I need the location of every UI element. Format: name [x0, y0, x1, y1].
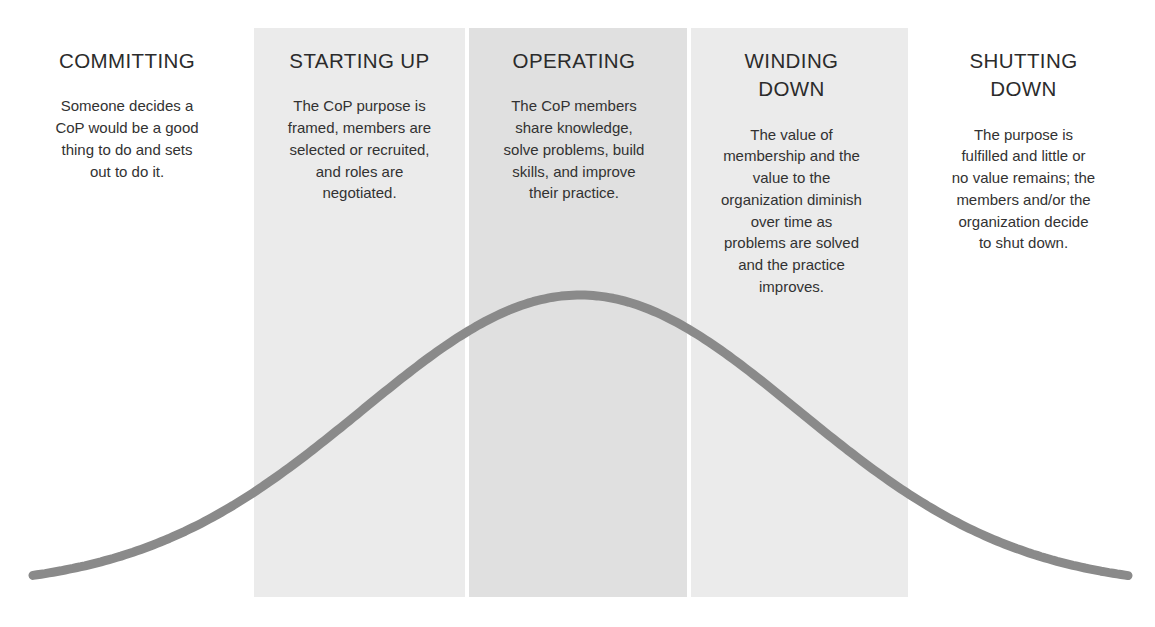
- stage-description-starting-up: The CoP purpose is framed, members are s…: [260, 95, 460, 204]
- stage-title-operating: OPERATING: [474, 47, 674, 75]
- stage-column-committing: COMMITTINGSomeone decides a CoP would be…: [0, 0, 254, 182]
- stage-column-operating: OPERATINGThe CoP members share knowledge…: [465, 0, 683, 204]
- stage-description-operating: The CoP members share knowledge, solve p…: [474, 95, 674, 204]
- stage-description-winding-down: The value of membership and the value to…: [689, 124, 894, 298]
- stage-title-winding-down: WINDING DOWN: [689, 47, 894, 104]
- stage-column-shutting-down: SHUTTING DOWNThe purpose is fulfilled an…: [900, 0, 1147, 254]
- stage-columns: COMMITTINGSomeone decides a CoP would be…: [0, 0, 1155, 627]
- stage-description-committing: Someone decides a CoP would be a good th…: [18, 95, 236, 182]
- stage-title-starting-up: STARTING UP: [260, 47, 460, 75]
- stage-column-winding-down: WINDING DOWNThe value of membership and …: [683, 0, 900, 298]
- stage-title-committing: COMMITTING: [18, 47, 236, 75]
- stage-column-starting-up: STARTING UPThe CoP purpose is framed, me…: [254, 0, 465, 204]
- stage-title-shutting-down: SHUTTING DOWN: [916, 47, 1131, 104]
- stage-description-shutting-down: The purpose is fulfilled and little or n…: [916, 124, 1131, 255]
- cop-lifecycle-diagram: COMMITTINGSomeone decides a CoP would be…: [0, 0, 1155, 627]
